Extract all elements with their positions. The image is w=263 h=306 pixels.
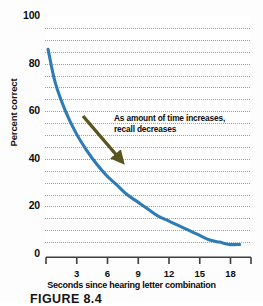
- y-tick-label: 40: [14, 152, 40, 164]
- y-tick-label: 20: [14, 199, 40, 211]
- x-tick-label: 6: [98, 268, 118, 279]
- y-axis-tick-labels: 020406080100: [10, 0, 40, 301]
- y-tick-label: 60: [14, 104, 40, 116]
- x-tick-label: 9: [128, 268, 148, 279]
- x-tick-label: 3: [67, 268, 87, 279]
- chart-annotation-text: As amount of time increases, recall decr…: [114, 113, 259, 135]
- y-tick-label: 100: [14, 9, 40, 21]
- figure-caption: FIGURE 8.4: [30, 292, 102, 306]
- y-tick-label: 0: [14, 247, 40, 259]
- plot-area: [45, 16, 250, 254]
- y-tick-label: 80: [14, 57, 40, 69]
- annotation-line-2: recall decreases: [114, 124, 176, 134]
- x-axis-title: Seconds since hearing letter combination: [0, 280, 263, 290]
- data-curve: [45, 16, 250, 254]
- annotation-line-1: As amount of time increases,: [114, 113, 225, 123]
- x-tick-label: 12: [159, 268, 179, 279]
- x-tick-label: 18: [221, 268, 241, 279]
- x-tick-label: 15: [190, 268, 210, 279]
